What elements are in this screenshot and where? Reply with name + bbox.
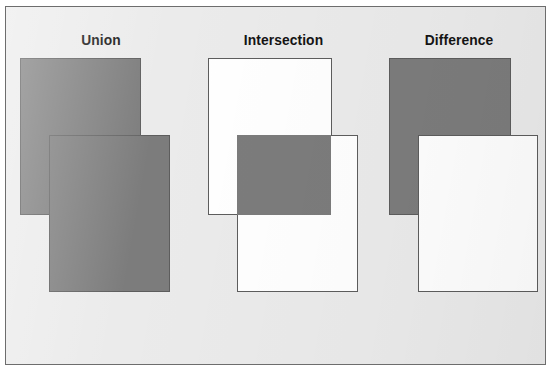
union-overlap-seam-left: [49, 135, 50, 215]
panel-intersection-title: Intersection: [203, 32, 364, 48]
panel-difference: Difference: [371, 7, 547, 366]
intersection-overlap-region: [237, 135, 331, 215]
panel-union-title: Union: [14, 32, 189, 48]
diagram-plate: Union Intersection Difference: [5, 6, 546, 365]
panel-difference-title: Difference: [378, 32, 540, 48]
panel-intersection: Intersection: [196, 7, 371, 366]
union-overlap-seam-top: [49, 135, 141, 136]
difference-rect-b: [418, 135, 538, 292]
panel-union: Union: [6, 7, 196, 366]
union-rect-b: [49, 135, 170, 292]
boolean-operations-figure: Union Intersection Difference: [0, 0, 552, 374]
